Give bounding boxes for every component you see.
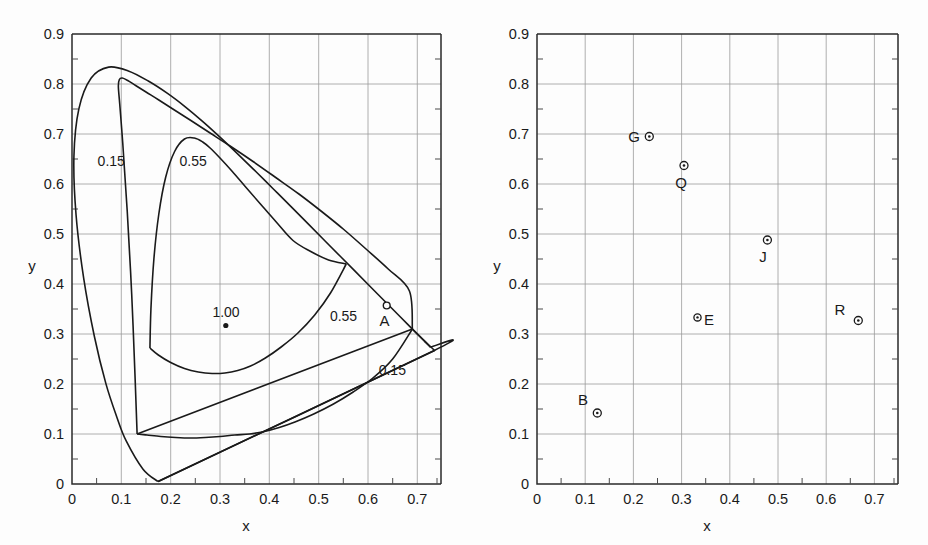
chart-panel-left: 0.15 0.55 0.55 0.15 1.00 A 0 0.1 0.2 0.3…: [0, 0, 464, 545]
x-tick-6: 0.6: [358, 491, 378, 507]
y-tick-8: 0.8: [44, 76, 64, 92]
contour-label-0-15-upper: 0.15: [98, 153, 125, 169]
y-tick-5: 0.5: [44, 226, 64, 242]
x-tick-7: 0.7: [864, 491, 884, 507]
point-R-label: R: [835, 301, 846, 318]
data-curves: [74, 67, 453, 482]
y-tick-4: 0.4: [44, 276, 64, 292]
x-axis-label-left: x: [242, 517, 250, 534]
x-tick-2: 0.2: [623, 491, 643, 507]
contour-label-0-55-lower: 0.55: [330, 308, 357, 324]
y-tick-0: 0: [56, 476, 64, 492]
x-tick-labels-right: 0 0.1 0.2 0.3 0.4 0.5 0.6 0.7: [533, 491, 885, 507]
y-tick-6: 0.6: [44, 176, 64, 192]
point-Q-label: Q: [675, 174, 687, 191]
labelled-points-right: G Q J R B E: [578, 128, 862, 418]
point-G-center-dot: [648, 135, 651, 138]
y-tick-7: 0.7: [509, 126, 529, 142]
contour-label-0-15-lower: 0.15: [379, 362, 406, 378]
y-tick-1: 0.1: [509, 426, 529, 442]
axis-frame-left: [72, 34, 441, 484]
point-B-label: B: [578, 391, 588, 408]
point-A-label: A: [380, 312, 390, 329]
x-tick-4: 0.4: [259, 491, 279, 507]
point-R-center-dot: [857, 319, 860, 322]
series-contour-0.55-lower: [150, 264, 346, 374]
y-axis-label-right: y: [493, 257, 501, 274]
y-tick-8: 0.8: [509, 76, 529, 92]
y-tick-9: 0.9: [44, 26, 64, 42]
x-tick-7: 0.7: [407, 491, 427, 507]
point-A-marker: [383, 302, 390, 309]
y-tick-1: 0.1: [44, 426, 64, 442]
y-tick-4: 0.4: [509, 276, 529, 292]
contour-label-0-55-upper: 0.55: [180, 153, 207, 169]
x-tick-0: 0: [533, 491, 541, 507]
series-triangle-0.15-outer: [137, 329, 434, 482]
y-tick-labels-left: 0 0.1 0.2 0.3 0.4 0.5 0.6 0.7 0.8 0.9: [44, 26, 64, 492]
y-tick-7: 0.7: [44, 126, 64, 142]
axis-frame-right: [537, 34, 898, 484]
x-tick-3: 0.3: [672, 491, 692, 507]
y-tick-3: 0.3: [44, 326, 64, 342]
y-tick-5: 0.5: [509, 226, 529, 242]
point-E-center-dot: [696, 316, 698, 318]
x-tick-1: 0.1: [575, 491, 595, 507]
right-chart-svg: G Q J R B E: [464, 0, 928, 545]
point-G-label: G: [628, 128, 640, 145]
y-tick-6: 0.6: [509, 176, 529, 192]
axis-ticks-right: [537, 59, 898, 484]
left-chart-svg: 0.15 0.55 0.55 0.15 1.00 A 0 0.1 0.2 0.3…: [0, 0, 464, 545]
x-tick-5: 0.5: [309, 491, 329, 507]
x-tick-3: 0.3: [210, 491, 230, 507]
y-tick-0: 0: [521, 476, 529, 492]
point-Q-center-dot: [683, 164, 686, 167]
y-tick-2: 0.2: [44, 376, 64, 392]
y-tick-3: 0.3: [509, 326, 529, 342]
y-tick-labels-right: 0 0.1 0.2 0.3 0.4 0.5 0.6 0.7 0.8 0.9: [509, 26, 529, 492]
point-J-label: J: [759, 248, 767, 265]
gridlines-left: [72, 34, 441, 484]
figure-container: 0.15 0.55 0.55 0.15 1.00 A 0 0.1 0.2 0.3…: [0, 0, 928, 545]
x-tick-labels-left: 0 0.1 0.2 0.3 0.4 0.5 0.6 0.7: [68, 491, 427, 507]
gridlines-right: [537, 34, 898, 484]
point-J-center-dot: [766, 239, 769, 242]
x-tick-6: 0.6: [816, 491, 836, 507]
point-label-1-00: 1.00: [212, 304, 239, 320]
point-B-center-dot: [596, 412, 599, 415]
x-axis-label-right: x: [703, 517, 711, 534]
x-tick-5: 0.5: [768, 491, 788, 507]
y-tick-2: 0.2: [509, 376, 529, 392]
y-axis-label-left: y: [28, 257, 36, 274]
x-tick-0: 0: [68, 491, 76, 507]
y-tick-9: 0.9: [509, 26, 529, 42]
x-tick-4: 0.4: [720, 491, 740, 507]
chart-panel-right: G Q J R B E: [464, 0, 928, 545]
series-contour-0.55-upper: [150, 137, 346, 348]
axis-ticks-left: [72, 59, 441, 484]
x-tick-2: 0.2: [161, 491, 181, 507]
point-E-label: E: [704, 311, 714, 328]
illuminant-point-1-00: [223, 323, 228, 328]
x-tick-1: 0.1: [111, 491, 131, 507]
